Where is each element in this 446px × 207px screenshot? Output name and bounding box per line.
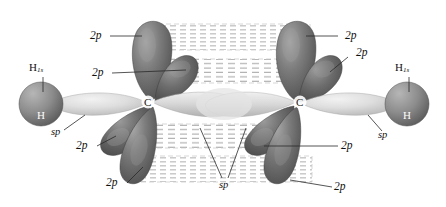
sigma-bond-overlap: [196, 88, 252, 120]
label-hydrogen-1s-left: H1s: [29, 62, 43, 74]
label-atom-carbon-right: C: [296, 97, 303, 108]
label-sp-left: sp: [51, 127, 60, 138]
label-2p-top-left-inner: 2p: [92, 67, 104, 79]
label-2p-bottom-left-outer: 2p: [106, 177, 118, 189]
label-sp-right: sp: [378, 130, 387, 141]
orbital-diagram-artwork: [0, 0, 446, 207]
label-2p-bottom-left-inner: 2p: [76, 140, 88, 152]
label-atom-hydrogen-left: H: [37, 110, 45, 121]
label-hydrogen-1s-right: H1s: [395, 62, 409, 74]
label-2p-top-left-outer: 2p: [90, 30, 102, 42]
label-2p-top-right-outer: 2p: [345, 30, 357, 42]
label-atom-hydrogen-right: H: [403, 110, 411, 121]
label-sp-bottom: sp: [219, 180, 228, 191]
label-2p-bottom-right-inner: 2p: [341, 140, 353, 152]
label-2p-bottom-right-outer: 2p: [334, 181, 346, 193]
orbital-diagram-figure: H1s H1s H H C C 2p 2p 2p 2p 2p 2p 2p 2p …: [0, 0, 446, 207]
label-atom-carbon-left: C: [144, 97, 151, 108]
label-2p-top-right-inner: 2p: [356, 47, 368, 59]
